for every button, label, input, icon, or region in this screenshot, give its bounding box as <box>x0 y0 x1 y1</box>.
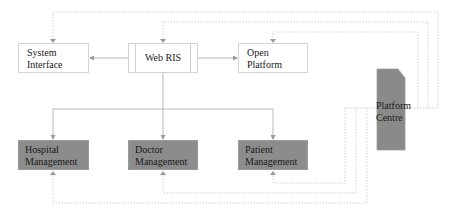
web-ris-node: Web RIS <box>128 43 198 73</box>
doctor-management-node: Doctor Management <box>128 140 198 170</box>
architecture-diagram: System Interface Web RIS Open Platform P… <box>0 0 456 213</box>
open-platform-label: Open Platform <box>247 47 282 71</box>
patient-management-node: Patient Management <box>238 140 308 170</box>
doctor-management-label: Doctor Management <box>135 144 187 168</box>
system-interface-label: System Interface <box>27 47 63 71</box>
hospital-management-label: Hospital Management <box>25 144 77 168</box>
open-platform-node: Open Platform <box>238 43 308 73</box>
web-ris-label: Web RIS <box>129 44 197 72</box>
platform-centre-label: Platform Centre <box>376 100 411 124</box>
system-interface-node: System Interface <box>18 43 89 73</box>
patient-management-label: Patient Management <box>245 144 297 168</box>
hospital-management-node: Hospital Management <box>18 140 89 170</box>
